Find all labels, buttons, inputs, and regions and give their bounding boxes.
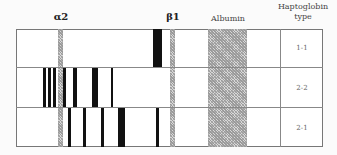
type-2-1: 2-1 xyxy=(281,124,323,132)
protein-band xyxy=(63,68,66,107)
albumin-column xyxy=(208,29,247,147)
protein-band xyxy=(118,108,125,147)
protein-band xyxy=(156,108,159,147)
protein-band xyxy=(111,68,113,107)
protein-band xyxy=(83,108,86,147)
protein-band xyxy=(73,68,77,107)
type-2-2: 2-2 xyxy=(281,84,323,92)
haptoglobin-label: Haptoglobin type xyxy=(276,2,330,22)
protein-band xyxy=(48,68,51,107)
protein-band xyxy=(53,68,56,107)
protein-band xyxy=(68,108,71,147)
albumin-label: Albumin xyxy=(200,14,256,23)
beta1-label: β1 xyxy=(161,11,185,22)
haptoglobin-label-line2: type xyxy=(276,12,330,22)
row-divider xyxy=(16,107,323,108)
protein-band xyxy=(43,68,46,107)
haptoglobin-label-line1: Haptoglobin xyxy=(276,2,330,12)
alpha2-label: α2 xyxy=(48,11,74,22)
protein-band xyxy=(101,108,104,147)
protein-band xyxy=(153,29,162,67)
type-1-1: 1-1 xyxy=(281,44,323,52)
protein-band xyxy=(92,68,98,107)
beta1-column xyxy=(170,29,175,147)
